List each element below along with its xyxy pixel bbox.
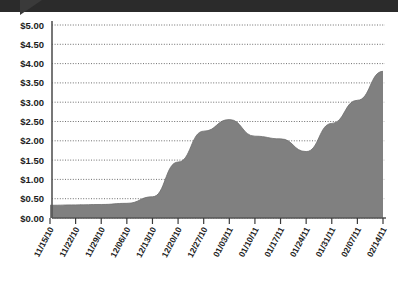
y-axis-label: $5.00 [20, 20, 44, 31]
x-axis-label: 01/10/11 [237, 225, 261, 259]
x-axis-label: 11/22/10 [57, 225, 81, 259]
x-axis-label: 01/24/11 [288, 225, 312, 259]
x-axis-label: 01/31/11 [313, 225, 337, 259]
y-axis-label: $2.00 [20, 135, 44, 146]
x-axis-label: 12/13/10 [134, 225, 158, 259]
y-axis-label: $1.00 [20, 174, 44, 185]
x-axis-label: 12/20/10 [159, 225, 183, 259]
area-series-price [50, 71, 383, 218]
x-axis-label: 11/15/10 [32, 225, 56, 259]
y-axis-label: $2.50 [20, 116, 44, 127]
x-axis-label: 11/29/10 [83, 225, 107, 259]
x-axis-label: 02/14/11 [365, 225, 389, 259]
y-axis-label: $1.50 [20, 155, 44, 166]
y-axis-label: $4.00 [20, 58, 44, 69]
x-axis-label: 12/27/10 [185, 225, 209, 259]
x-axis-label: 01/03/11 [211, 225, 235, 259]
y-axis-label: $0.50 [20, 193, 44, 204]
y-axis-label: $0.00 [20, 213, 44, 224]
area-chart: $0.00$0.50$1.00$1.50$2.00$2.50$3.00$3.50… [0, 0, 398, 284]
y-axis-label: $3.50 [20, 77, 44, 88]
x-axis-label: 01/17/11 [262, 225, 286, 259]
x-axis-label: 12/06/10 [108, 225, 132, 259]
chart-container: $0.00$0.50$1.00$1.50$2.00$2.50$3.00$3.50… [0, 0, 398, 284]
x-axis-label: 02/07/11 [339, 225, 363, 259]
y-axis-label: $4.50 [20, 39, 44, 50]
y-axis-label: $3.00 [20, 97, 44, 108]
